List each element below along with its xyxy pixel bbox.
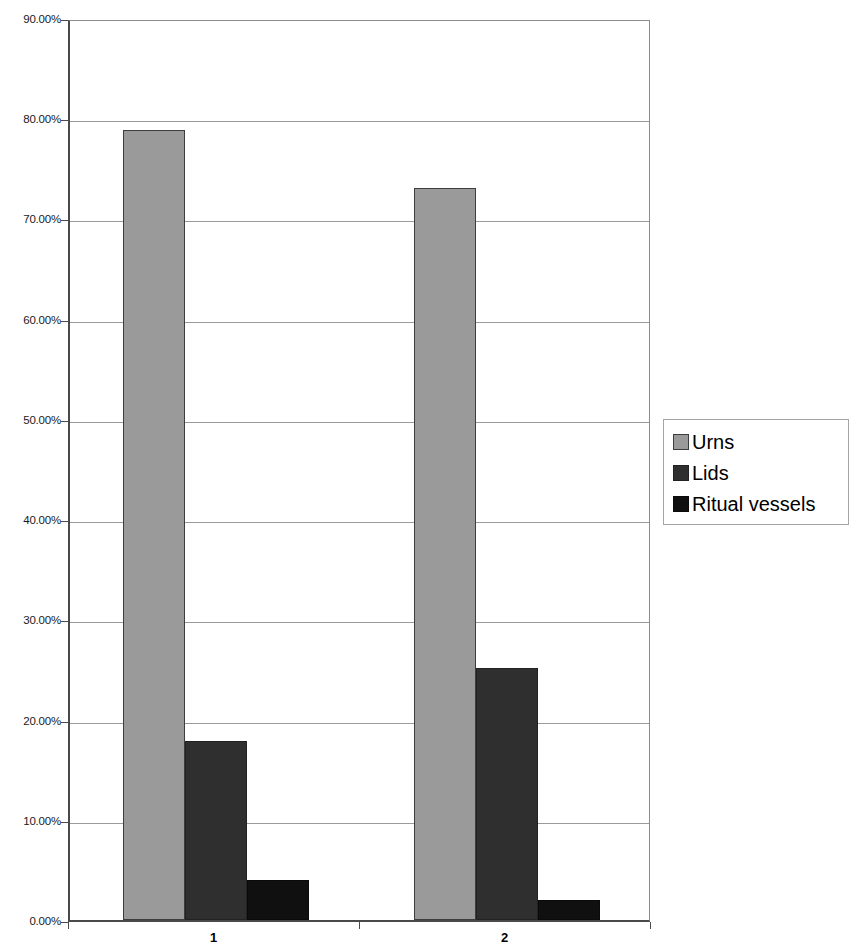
x-axis-tick-mark: [359, 922, 360, 929]
y-axis-tick-mark: [61, 421, 68, 422]
legend-swatch-icon-lids: [673, 465, 689, 481]
y-axis-tick-label: 0.00%: [0, 915, 61, 927]
y-axis-tick-mark: [61, 321, 68, 322]
y-axis-tick-label: 10.00%: [0, 815, 61, 827]
x-axis-tick-mark: [650, 922, 651, 929]
bar-lids-2: [476, 668, 538, 920]
bar-chart: 0.00%10.00%20.00%30.00%40.00%50.00%60.00…: [0, 0, 856, 952]
x-axis-tick-label: 1: [68, 930, 359, 945]
y-axis-tick-mark: [61, 621, 68, 622]
x-axis-tick-label: 2: [359, 930, 650, 945]
y-axis-tick-mark: [61, 120, 68, 121]
y-axis-tick-label: 70.00%: [0, 213, 61, 225]
legend-label-urns: Urns: [692, 432, 734, 452]
legend: Urns Lids Ritual vessels: [663, 419, 849, 525]
bar-ritual-vessels-1: [247, 880, 309, 920]
bar-ritual-vessels-2: [538, 900, 600, 920]
bar-lids-1: [185, 741, 247, 920]
legend-swatch-icon-ritual-vessels: [673, 496, 689, 512]
legend-item-ritual-vessels: Ritual vessels: [673, 488, 848, 519]
bar-urns-2: [414, 188, 476, 920]
y-axis-tick-mark: [61, 20, 68, 21]
y-axis-tick-label: 50.00%: [0, 414, 61, 426]
legend-item-urns: Urns: [673, 426, 848, 457]
legend-item-lids: Lids: [673, 457, 848, 488]
y-axis-tick-mark: [61, 822, 68, 823]
x-axis-tick-mark: [68, 922, 69, 929]
bar-urns-1: [123, 130, 185, 920]
legend-label-ritual-vessels: Ritual vessels: [692, 494, 815, 514]
legend-label-lids: Lids: [692, 463, 729, 483]
y-axis-tick-mark: [61, 220, 68, 221]
y-axis-tick-label: 20.00%: [0, 715, 61, 727]
gridline: [70, 121, 649, 122]
y-axis-tick-mark: [61, 922, 68, 923]
y-axis-tick-mark: [61, 722, 68, 723]
y-axis-tick-mark: [61, 521, 68, 522]
legend-swatch-icon-urns: [673, 434, 689, 450]
plot-area: [68, 20, 650, 922]
y-axis-tick-label: 40.00%: [0, 514, 61, 526]
y-axis-tick-label: 30.00%: [0, 614, 61, 626]
y-axis-tick-label: 80.00%: [0, 113, 61, 125]
y-axis-tick-label: 90.00%: [0, 13, 61, 25]
y-axis-tick-label: 60.00%: [0, 314, 61, 326]
